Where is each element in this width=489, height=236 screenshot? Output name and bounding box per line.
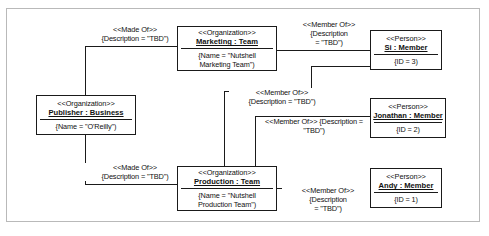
object-attribute: Production Team") (180, 200, 274, 209)
connector-production-si-vertical-left (224, 91, 225, 171)
link-label-publisher-marketing: <<Made Of>> {Description = "TBD") (84, 25, 186, 43)
link-label-marketing-si: <<Member Of>> {Description = "TBD") (283, 20, 375, 48)
object-attribute: {Name = "Nutshell (180, 51, 274, 60)
connector-publisher-marketing-horizontal (85, 46, 178, 47)
link-description: {Description = "TBD") (85, 172, 185, 181)
link-stereotype: <<Member Of>> (230, 88, 334, 97)
connector-production-si-horizontal-top (311, 66, 371, 67)
object-stereotype: <<Organization>> (180, 28, 274, 37)
connector-publisher-production-horizontal (85, 184, 178, 185)
link-description-cont: = "TBD") (284, 38, 374, 47)
object-stereotype: <<Person>> (373, 34, 439, 43)
link-label-production-si: <<Member Of>> {Description = "TBD") (229, 88, 335, 106)
object-separator (374, 122, 442, 123)
object-separator (374, 192, 438, 193)
link-description: {Description (284, 29, 374, 38)
object-separator (181, 188, 273, 189)
object-attribute: {ID = 3) (373, 57, 439, 66)
object-attribute: {Name = "O'Reilly") (39, 122, 133, 131)
object-name: Marketing : Team (180, 37, 274, 47)
link-stereotype: <<Made Of>> (85, 25, 185, 34)
object-node-si-member[interactable]: <<Person>> Si : Member {ID = 3) (370, 30, 442, 70)
object-stereotype: <<Organization>> (180, 168, 274, 177)
object-name: Jonathan : Member (373, 111, 443, 121)
object-attribute: Marketing Team") (180, 60, 274, 69)
link-description: {Description = "TBD") (85, 34, 185, 43)
link-label-publisher-production: <<Made Of>> {Description = "TBD") (84, 163, 186, 181)
link-stereotype: <<Member Of>> (284, 20, 374, 29)
object-stereotype: <<Person>> (373, 102, 443, 111)
object-separator (40, 119, 132, 120)
object-node-jonathan-member[interactable]: <<Person>> Jonathan : Member {ID = 2) (370, 98, 446, 138)
connector-publisher-marketing-vertical (85, 46, 86, 95)
object-attribute: {Name = "Nutshell (180, 191, 274, 200)
object-node-publisher[interactable]: <<Organization>> Publisher : Business {N… (36, 95, 136, 135)
link-description-cont: = "TBD") (283, 204, 373, 213)
object-name: Publisher : Business (39, 108, 133, 118)
object-node-production-team[interactable]: <<Organization>> Production : Team {Name… (177, 166, 277, 211)
object-attribute: {ID = 1) (373, 195, 439, 204)
object-stereotype: <<Organization>> (39, 99, 133, 108)
object-name: Si : Member (373, 43, 439, 53)
link-stereotype: <<Made Of>> (85, 163, 185, 172)
link-description: {Description = "TBD") (230, 97, 334, 106)
link-description: "TBD") (257, 126, 371, 135)
connector-marketing-si (276, 50, 371, 51)
object-stereotype: <<Person>> (373, 172, 439, 181)
object-node-andy-member[interactable]: <<Person>> Andy : Member {ID = 1) (370, 168, 442, 208)
object-name: Andy : Member (373, 181, 439, 191)
object-name: Production : Team (180, 177, 274, 187)
link-stereotype: <<Member Of>> (283, 186, 373, 195)
object-separator (181, 48, 273, 49)
link-label-production-andy: <<Member Of>> {Description = "TBD") (282, 186, 374, 214)
object-separator (374, 54, 438, 55)
link-description: {Description (283, 195, 373, 204)
object-attribute: {ID = 2) (373, 125, 443, 134)
uml-object-diagram-canvas: <<Made Of>> {Description = "TBD") <<Memb… (0, 0, 489, 236)
link-label-production-jonathan: <<Member Of>> {Description = "TBD") (256, 117, 372, 135)
object-node-marketing-team[interactable]: <<Organization>> Marketing : Team {Name … (177, 26, 277, 71)
link-stereotype: <<Member Of>> {Description = (257, 117, 371, 126)
